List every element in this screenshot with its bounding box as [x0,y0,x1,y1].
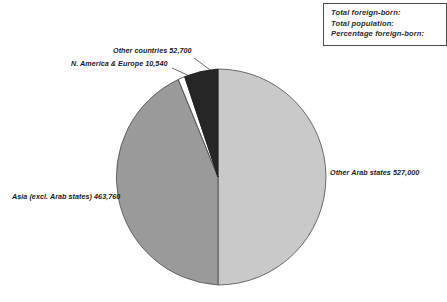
slice-label-other-arab-states: Other Arab states 527,000 [330,168,419,177]
leader-line-other-countries [194,58,213,72]
slice-label-north-america-europe: N. America & Europe 10,540 [71,59,168,68]
slice-label-asia-excl-arab-states: Asia (excl. Arab states) 463,760 [12,192,120,201]
slice-label-other-countries: Other countries 52,700 [113,46,192,55]
leader-line-north-america-europe [172,68,196,79]
